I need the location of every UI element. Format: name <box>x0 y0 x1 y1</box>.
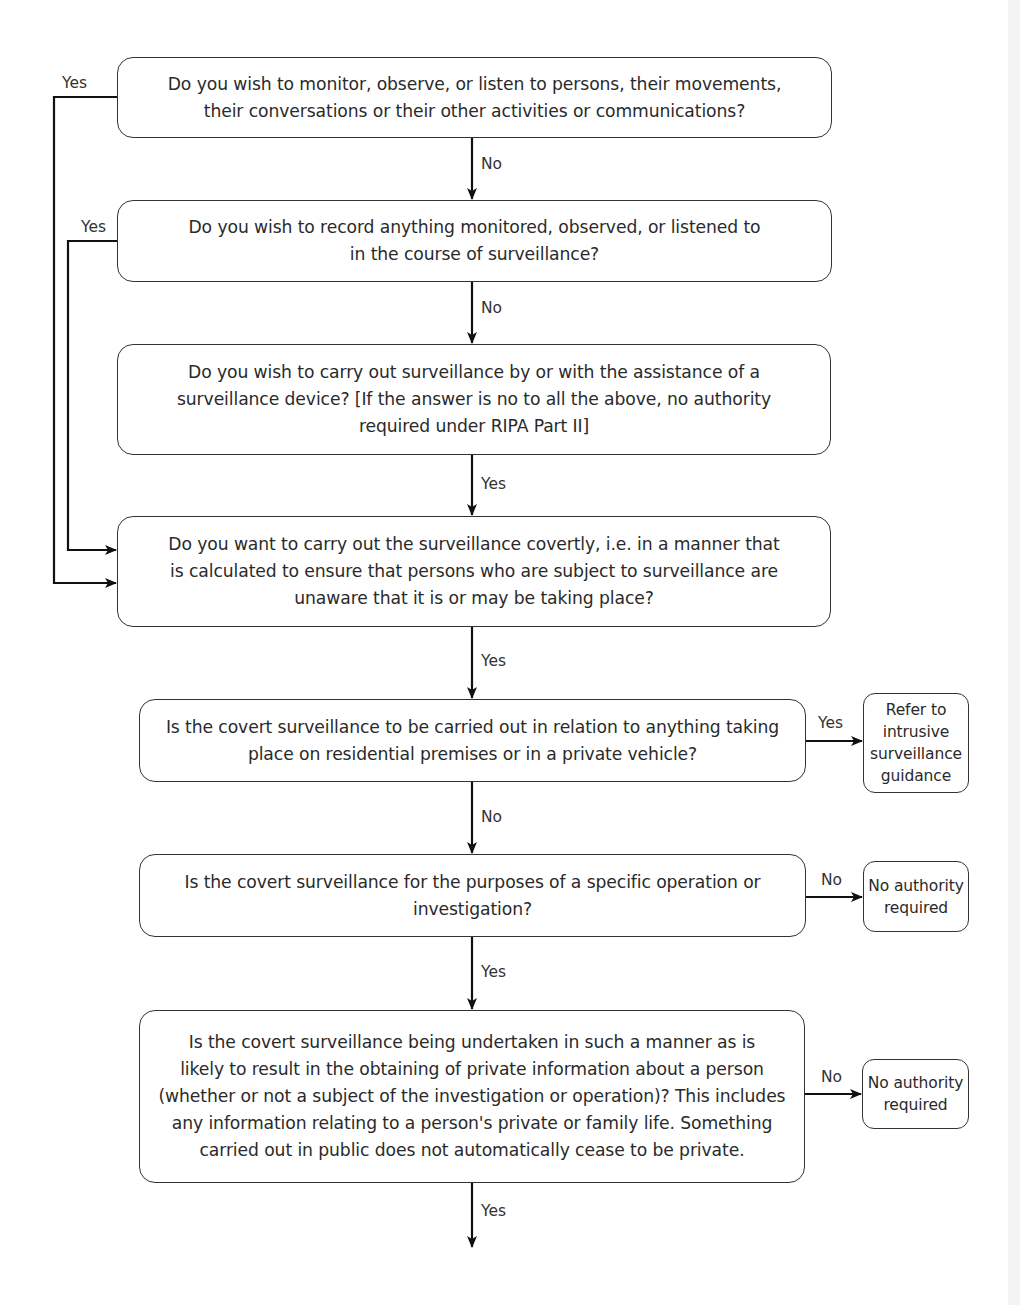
outcome-text: Refer to intrusive surveillance guidance <box>870 699 962 787</box>
edge-label-q6-yes: Yes <box>481 963 506 981</box>
edge-label-q2-yes: Yes <box>81 218 106 236</box>
edge-label-q2-no: No <box>481 299 502 317</box>
outcome-text: No authority required <box>868 1072 963 1116</box>
question-text: Is the covert surveillance to be carried… <box>166 714 779 768</box>
edge-label-q4-yes: Yes <box>481 652 506 670</box>
question-box-monitor: Do you wish to monitor, observe, or list… <box>117 57 832 138</box>
question-box-private-information: Is the covert surveillance being underta… <box>139 1010 805 1183</box>
question-box-covert: Do you want to carry out the surveillanc… <box>117 516 831 627</box>
question-text: Do you wish to record anything monitored… <box>188 214 760 268</box>
edge-label-q5-no: No <box>481 808 502 826</box>
edge-label-q1-yes: Yes <box>62 74 87 92</box>
question-text: Do you wish to carry out surveillance by… <box>177 359 771 440</box>
edge-label-q1-no: No <box>481 155 502 173</box>
edge-label-q5-yes: Yes <box>818 714 843 732</box>
question-text: Do you wish to monitor, observe, or list… <box>168 71 782 125</box>
question-box-specific-operation: Is the covert surveillance for the purpo… <box>139 854 806 937</box>
edge-label-q7-no: No <box>821 1068 842 1086</box>
arrow-q1-yes <box>54 97 118 583</box>
arrow-q2-yes <box>68 241 118 550</box>
question-text: Is the covert surveillance for the purpo… <box>184 869 760 923</box>
edge-label-q3-yes: Yes <box>481 475 506 493</box>
question-box-record: Do you wish to record anything monitored… <box>117 200 832 282</box>
question-box-residential: Is the covert surveillance to be carried… <box>139 699 806 782</box>
outcome-box-intrusive-guidance: Refer to intrusive surveillance guidance <box>863 693 969 793</box>
edge-label-q6-no: No <box>821 871 842 889</box>
outcome-box-no-authority-1: No authority required <box>863 861 969 932</box>
edge-label-q7-yes: Yes <box>481 1202 506 1220</box>
question-text: Do you want to carry out the surveillanc… <box>168 531 779 612</box>
question-box-surveillance-device: Do you wish to carry out surveillance by… <box>117 344 831 455</box>
question-text: Is the covert surveillance being underta… <box>159 1029 786 1164</box>
outcome-box-no-authority-2: No authority required <box>862 1059 969 1129</box>
outcome-text: No authority required <box>868 875 963 919</box>
